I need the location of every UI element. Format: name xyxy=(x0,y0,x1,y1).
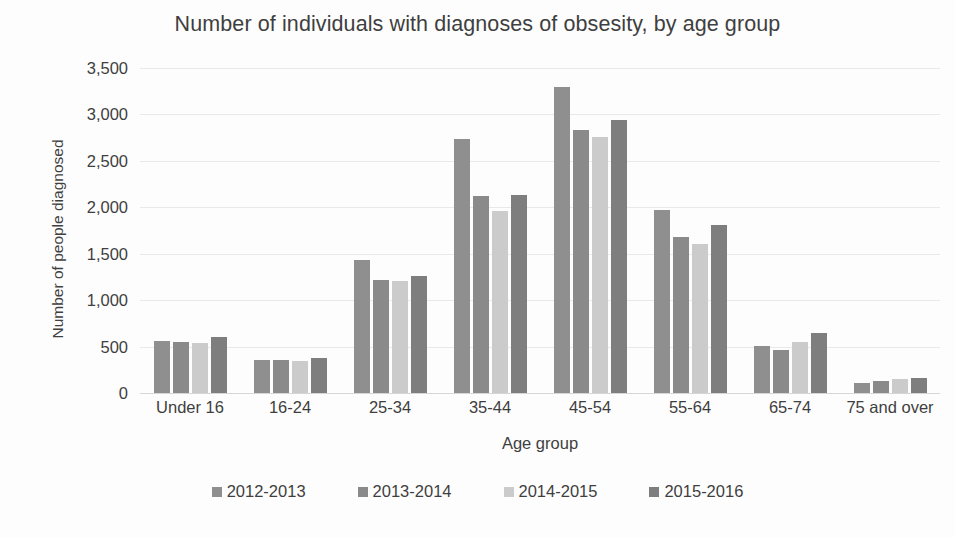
bar[interactable] xyxy=(311,358,327,393)
bar-group xyxy=(640,68,740,393)
x-axis-tick: 75 and over xyxy=(840,398,940,417)
bar[interactable] xyxy=(854,383,870,393)
x-axis-tick: 55-64 xyxy=(640,398,740,417)
bar-group xyxy=(440,68,540,393)
bar[interactable] xyxy=(192,343,208,393)
chart-container: Number of individuals with diagnoses of … xyxy=(0,0,955,537)
bar[interactable] xyxy=(411,276,427,393)
bar[interactable] xyxy=(754,346,770,393)
legend-label: 2013-2014 xyxy=(373,482,452,501)
legend-swatch-icon xyxy=(212,487,222,497)
y-axis-tick: 2,500 xyxy=(48,151,128,170)
bar[interactable] xyxy=(554,87,570,393)
x-axis-tick: 25-34 xyxy=(340,398,440,417)
bar-group xyxy=(540,68,640,393)
bar-group xyxy=(140,68,240,393)
bar[interactable] xyxy=(692,244,708,393)
legend-item[interactable]: 2012-2013 xyxy=(212,482,306,501)
bar[interactable] xyxy=(173,342,189,393)
bar[interactable] xyxy=(873,381,889,393)
x-axis-tick: 16-24 xyxy=(240,398,340,417)
legend-label: 2015-2016 xyxy=(664,482,743,501)
x-axis-tick: 35-44 xyxy=(440,398,540,417)
y-axis-tick: 3,000 xyxy=(48,105,128,124)
bar[interactable] xyxy=(811,333,827,393)
bar-group xyxy=(340,68,440,393)
bar[interactable] xyxy=(911,378,927,393)
legend-item[interactable]: 2013-2014 xyxy=(358,482,452,501)
bar[interactable] xyxy=(773,350,789,393)
x-axis-tick-labels: Under 1616-2425-3435-4445-5455-6465-7475… xyxy=(140,398,940,417)
x-axis-title: Age group xyxy=(140,434,940,453)
bar[interactable] xyxy=(711,225,727,393)
bar[interactable] xyxy=(654,210,670,393)
bar[interactable] xyxy=(211,337,227,393)
bar[interactable] xyxy=(573,130,589,393)
y-axis-tick: 3,500 xyxy=(48,59,128,78)
bar[interactable] xyxy=(892,379,908,393)
legend-label: 2014-2015 xyxy=(519,482,598,501)
bar[interactable] xyxy=(454,139,470,393)
x-axis-tick: Under 16 xyxy=(140,398,240,417)
legend-label: 2012-2013 xyxy=(227,482,306,501)
chart-title: Number of individuals with diagnoses of … xyxy=(0,12,955,37)
y-axis-tick-labels: 05001,0001,5002,0002,5003,0003,500 xyxy=(40,68,140,393)
y-axis-tick: 2,000 xyxy=(48,198,128,217)
bar[interactable] xyxy=(611,120,627,393)
bar-groups xyxy=(140,68,940,393)
bar[interactable] xyxy=(492,211,508,393)
gridline xyxy=(140,393,940,394)
legend-item[interactable]: 2015-2016 xyxy=(649,482,743,501)
plot-area xyxy=(140,68,940,393)
legend-swatch-icon xyxy=(649,487,659,497)
bar[interactable] xyxy=(292,361,308,394)
bar[interactable] xyxy=(392,281,408,393)
y-axis-tick: 500 xyxy=(48,337,128,356)
bar[interactable] xyxy=(511,195,527,393)
bar[interactable] xyxy=(354,260,370,393)
y-axis-tick: 1,000 xyxy=(48,291,128,310)
bar[interactable] xyxy=(273,360,289,393)
bar[interactable] xyxy=(254,360,270,393)
bar[interactable] xyxy=(373,280,389,393)
x-axis-tick: 65-74 xyxy=(740,398,840,417)
bar[interactable] xyxy=(154,341,170,393)
bar[interactable] xyxy=(792,342,808,393)
chart-legend: 2012-20132013-20142014-20152015-2016 xyxy=(0,482,955,501)
y-axis-tick: 0 xyxy=(48,384,128,403)
legend-swatch-icon xyxy=(504,487,514,497)
bar-group xyxy=(840,68,940,393)
bar[interactable] xyxy=(673,237,689,393)
bar[interactable] xyxy=(473,196,489,393)
legend-swatch-icon xyxy=(358,487,368,497)
bar[interactable] xyxy=(592,137,608,393)
x-axis-tick: 45-54 xyxy=(540,398,640,417)
y-axis-tick: 1,500 xyxy=(48,244,128,263)
bar-group xyxy=(240,68,340,393)
legend-item[interactable]: 2014-2015 xyxy=(504,482,598,501)
bar-group xyxy=(740,68,840,393)
